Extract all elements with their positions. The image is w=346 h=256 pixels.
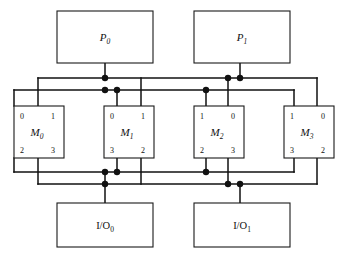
memory-m3-port-bottom-right: 2 xyxy=(321,146,325,155)
memory-m1-port-top-left: 0 xyxy=(110,112,114,121)
interconnection-diagram: P0 P1 0 1 2 3 M0 0 1 3 2 M1 1 0 2 xyxy=(0,0,346,256)
junction-dot xyxy=(203,169,209,175)
memory-m1-port-bottom-right: 2 xyxy=(141,146,145,155)
junction-dot xyxy=(225,75,231,81)
junction-dot xyxy=(237,181,243,187)
memory-m3-port-top-left: 1 xyxy=(290,112,294,121)
memory-m1-port-bottom-left: 3 xyxy=(110,146,114,155)
memory-module-m1[interactable]: 0 1 3 2 M1 xyxy=(104,106,154,158)
processor-p1[interactable]: P1 xyxy=(194,11,290,63)
junction-dot xyxy=(114,169,120,175)
memory-m2-port-top-left: 1 xyxy=(200,112,204,121)
memory-m0-port-top-right: 1 xyxy=(51,112,55,121)
junction-dot xyxy=(225,181,231,187)
junction-dot xyxy=(102,87,108,93)
memory-module-m3[interactable]: 1 0 3 2 M3 xyxy=(284,106,334,158)
memory-m3-port-bottom-left: 3 xyxy=(290,146,294,155)
memory-m0-port-top-left: 0 xyxy=(20,112,24,121)
memory-m0-port-bottom-right: 3 xyxy=(51,146,55,155)
memory-m2-port-bottom-left: 2 xyxy=(200,146,204,155)
memory-module-m0[interactable]: 0 1 2 3 M0 xyxy=(14,106,64,158)
junction-dot xyxy=(102,75,108,81)
junction-dot xyxy=(102,181,108,187)
junction-dot xyxy=(237,75,243,81)
processor-p0[interactable]: P0 xyxy=(57,11,153,63)
junction-dot xyxy=(102,169,108,175)
memory-m1-port-top-right: 1 xyxy=(141,112,145,121)
io-unit-io0[interactable]: I/O0 xyxy=(57,203,153,247)
junction-dot xyxy=(114,87,120,93)
io-unit-io1[interactable]: I/O1 xyxy=(194,203,290,247)
diagram-canvas: P0 P1 0 1 2 3 M0 0 1 3 2 M1 1 0 2 xyxy=(0,0,346,256)
memory-module-m2[interactable]: 1 0 2 3 M2 xyxy=(194,106,244,158)
memory-m2-port-top-right: 0 xyxy=(231,112,235,121)
memory-m0-port-bottom-left: 2 xyxy=(20,146,24,155)
memory-m2-port-bottom-right: 3 xyxy=(231,146,235,155)
memory-m3-port-top-right: 0 xyxy=(321,112,325,121)
junction-dot xyxy=(203,87,209,93)
